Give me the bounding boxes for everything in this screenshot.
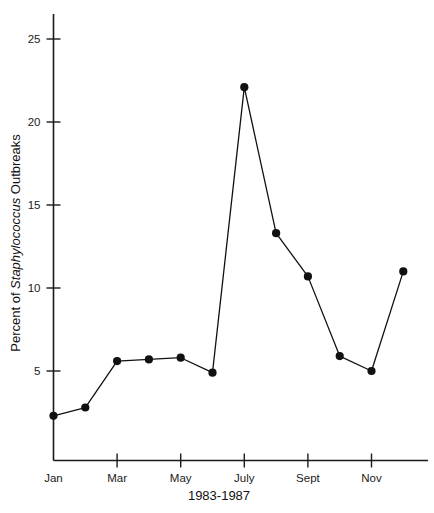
data-point-marker <box>304 272 312 280</box>
y-tick-label: 5 <box>34 365 40 377</box>
x-tick-label: Sept <box>296 472 320 484</box>
x-axis-title: 1983-1987 <box>188 488 250 503</box>
y-tick-label: 10 <box>28 282 41 294</box>
x-tick-label: July <box>234 472 255 484</box>
y-axis-title: Percent of Staphylococcus Outbreaks <box>8 134 23 352</box>
data-series-group <box>49 83 407 420</box>
data-point-marker <box>336 352 344 360</box>
data-point-marker <box>208 369 216 377</box>
data-point-marker <box>367 367 375 375</box>
x-tick-label: Nov <box>361 472 382 484</box>
data-point-marker <box>240 83 248 91</box>
axes-group <box>54 14 429 461</box>
y-tick-label: 25 <box>28 33 41 45</box>
x-tick-label: Jan <box>44 472 63 484</box>
staph-outbreaks-line-chart: 510152025 JanMarMayJulySeptNov Percent o… <box>0 0 434 513</box>
y-tick-label: 15 <box>28 199 41 211</box>
x-axis-ticks: JanMarMayJulySeptNov <box>44 454 382 484</box>
y-tick-label: 20 <box>28 116 41 128</box>
chart-figure: 510152025 JanMarMayJulySeptNov Percent o… <box>0 0 434 513</box>
series-line-staph-percent <box>54 87 404 416</box>
y-axis-ticks: 510152025 <box>28 33 61 377</box>
x-tick-label: Mar <box>107 472 127 484</box>
data-point-marker <box>113 357 121 365</box>
data-point-marker <box>177 354 185 362</box>
series-markers <box>49 83 407 420</box>
data-point-marker <box>81 403 89 411</box>
x-tick-label: May <box>170 472 192 484</box>
data-point-marker <box>399 267 407 275</box>
data-point-marker <box>145 355 153 363</box>
data-point-marker <box>272 229 280 237</box>
data-point-marker <box>49 412 57 420</box>
